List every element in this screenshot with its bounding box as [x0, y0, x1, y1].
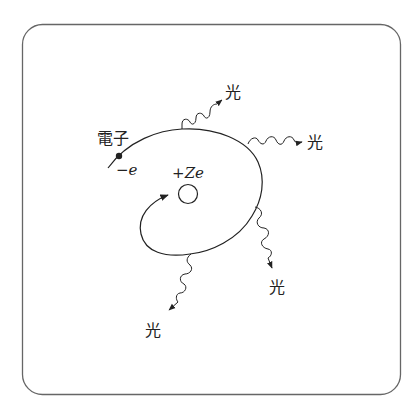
nucleus-plus: + [172, 164, 185, 182]
photon-wave-top [182, 100, 222, 129]
electron-dot [116, 153, 122, 159]
photon-label-lower-right: 光 [269, 278, 285, 297]
nucleus-charge-label: +Ze [172, 164, 204, 182]
atom-radiation-diagram: 電子 −e +Ze 光 光 光 光 [0, 0, 416, 406]
nucleus-ze: Ze [184, 164, 204, 182]
diagram-frame [23, 25, 401, 395]
photon-label-right: 光 [307, 133, 323, 152]
charge-e: e [129, 161, 138, 179]
charge-minus: − [116, 161, 129, 179]
electron-charge-label: −e [116, 161, 138, 179]
nucleus-circle [179, 185, 198, 204]
photon-label-bottom: 光 [145, 321, 161, 340]
photon-wave-bottom [169, 254, 192, 310]
electron-label: 電子 [97, 129, 129, 148]
photon-wave-lower-right [255, 207, 272, 268]
photon-wave-right [248, 137, 302, 145]
photon-label-top: 光 [225, 83, 241, 102]
